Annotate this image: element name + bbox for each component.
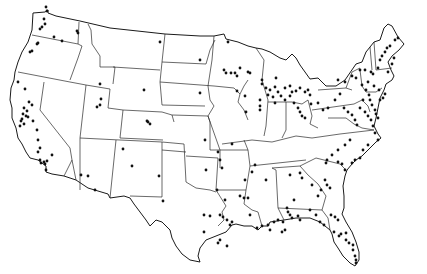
location-dot — [326, 159, 329, 162]
location-dot — [41, 26, 44, 29]
location-dot — [299, 219, 302, 222]
location-dot — [327, 107, 330, 110]
location-dot — [375, 113, 378, 116]
location-dot — [226, 219, 229, 222]
location-dot — [267, 224, 270, 227]
location-dot — [162, 200, 165, 203]
location-dot — [322, 109, 325, 112]
location-dot — [393, 57, 396, 60]
location-dot — [199, 92, 202, 95]
location-dot — [44, 23, 47, 26]
location-dot — [77, 32, 80, 35]
location-dot — [355, 262, 358, 265]
location-dot — [309, 209, 312, 212]
location-dot — [384, 93, 387, 96]
location-dot — [297, 215, 300, 218]
location-dot — [221, 167, 224, 170]
location-dot — [223, 69, 226, 72]
location-dot — [345, 239, 348, 242]
location-dot — [378, 89, 381, 92]
location-dot — [256, 227, 259, 230]
location-dot — [236, 90, 239, 93]
location-dot — [369, 99, 372, 102]
location-dot — [297, 107, 300, 110]
location-dot — [39, 147, 42, 150]
location-dot — [301, 115, 304, 118]
location-dot — [284, 229, 287, 232]
location-dot — [216, 189, 219, 192]
location-dot — [259, 99, 262, 102]
location-dot — [225, 72, 228, 75]
location-dot — [236, 75, 239, 78]
location-dot — [354, 119, 357, 122]
location-dot — [377, 67, 380, 70]
location-dot — [199, 59, 202, 62]
location-dot — [265, 179, 268, 182]
location-dot — [159, 41, 162, 44]
location-dot — [224, 199, 227, 202]
location-dot — [226, 245, 229, 248]
location-dot — [231, 143, 234, 146]
location-dot — [339, 93, 342, 96]
location-dot — [310, 103, 313, 106]
location-dot — [381, 55, 384, 58]
location-dot — [361, 84, 364, 87]
location-dot — [320, 189, 323, 192]
location-dot — [333, 231, 336, 234]
location-dot — [227, 41, 230, 44]
location-dot — [329, 187, 332, 190]
location-dot — [344, 144, 347, 147]
location-dot — [94, 189, 97, 192]
location-dot — [299, 87, 302, 90]
location-dot — [351, 114, 354, 117]
location-dot — [32, 120, 35, 123]
location-dot — [222, 216, 225, 219]
location-dot — [274, 102, 277, 105]
location-dot — [379, 59, 382, 62]
location-dot — [367, 115, 370, 118]
location-dot — [217, 242, 220, 245]
location-dot — [354, 159, 357, 162]
location-dot — [100, 98, 103, 101]
location-dot — [254, 164, 257, 167]
location-dot — [28, 101, 31, 104]
location-dot — [311, 184, 314, 187]
location-dot — [219, 239, 222, 242]
location-dot — [299, 172, 302, 175]
location-dot — [37, 151, 40, 154]
location-dot — [17, 81, 20, 84]
location-dot — [377, 117, 380, 120]
location-dot — [24, 88, 27, 91]
location-dot — [301, 177, 304, 180]
location-dot — [261, 225, 264, 228]
location-dot — [367, 144, 370, 147]
location-dot — [370, 119, 373, 122]
location-dot — [31, 104, 34, 107]
location-dot — [45, 169, 48, 172]
location-dot — [26, 110, 29, 113]
location-dot — [384, 51, 387, 54]
location-dot — [209, 215, 212, 218]
location-dot — [289, 95, 292, 98]
location-dot — [373, 85, 376, 88]
location-dot — [23, 107, 26, 110]
location-dot — [337, 149, 340, 152]
location-dot — [293, 199, 296, 202]
location-dot — [20, 120, 23, 123]
location-dot — [367, 81, 370, 84]
location-dot — [368, 94, 371, 97]
location-dot — [287, 211, 290, 214]
location-dot — [394, 39, 397, 42]
location-dot — [244, 179, 247, 182]
location-dot — [261, 79, 264, 82]
location-dot — [337, 219, 340, 222]
location-dot — [203, 214, 206, 217]
location-dot — [371, 104, 374, 107]
location-dot — [324, 179, 327, 182]
location-dot — [348, 242, 351, 245]
location-dot — [315, 214, 318, 217]
location-dot — [143, 89, 146, 92]
location-dot — [325, 162, 328, 165]
location-dot — [261, 83, 264, 86]
location-dot — [307, 89, 310, 92]
